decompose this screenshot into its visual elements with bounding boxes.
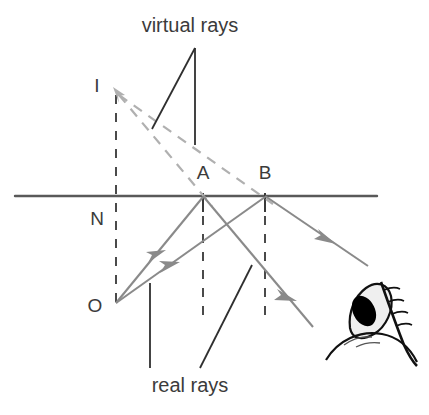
virtual-rays-group — [113, 87, 273, 206]
reflected-ray-from-b — [265, 196, 368, 266]
real-rays-leader-right — [200, 265, 252, 368]
reflected-rays-group — [203, 196, 368, 327]
optics-ray-diagram: I N O A B virtual rays real rays — [0, 0, 429, 415]
caption-virtual-rays: virtual rays — [142, 14, 239, 36]
caption-real-rays: real rays — [152, 374, 229, 396]
incident-rays-group — [116, 197, 265, 303]
incident-ray-b-arrowhead-icon — [159, 261, 180, 273]
observer-eye-icon — [326, 282, 417, 366]
reflected-ray-from-a — [203, 196, 313, 327]
label-point-b: B — [259, 162, 272, 183]
label-point-n: N — [90, 208, 104, 229]
label-point-a: A — [197, 162, 210, 183]
label-point-i: I — [94, 75, 99, 96]
diagram-canvas: I N O A B virtual rays real rays — [0, 0, 429, 415]
reflected-ray-a-arrowhead-icon — [274, 289, 297, 301]
captions-group: virtual rays real rays — [142, 14, 239, 396]
label-point-o: O — [88, 295, 103, 316]
caption-leader-lines-group — [150, 48, 252, 368]
virtual-rays-leader-left — [152, 48, 195, 129]
virtual-ray-to-b — [119, 95, 273, 204]
incident-ray-a-arrowhead-icon — [146, 250, 166, 263]
